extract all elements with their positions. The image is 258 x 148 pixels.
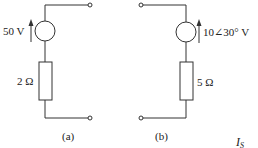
circuit-diagram: 50 V 2 Ω (a) 10∠30° V 5 Ω (b) IS [0, 0, 258, 148]
circuit-a-voltage-source-icon [35, 21, 55, 41]
circuit-a-bottom-terminal-icon [88, 116, 92, 120]
circuit-b-source-arrow-icon [197, 19, 202, 26]
circuit-a [29, 3, 93, 120]
circuit-b-top-terminal-icon [139, 3, 143, 7]
circuit-b-top-wire [142, 5, 186, 22]
circuit-b-resistor-label: 5 Ω [197, 76, 213, 88]
current-source-label: IS [235, 135, 244, 148]
circuit-b-bottom-terminal-icon [139, 116, 143, 120]
current-label-subscript: S [240, 141, 244, 148]
circuit-b-voltage-source-icon [176, 22, 196, 42]
circuit-b [139, 3, 202, 120]
circuit-a-resistor-label: 2 Ω [17, 75, 33, 87]
circuit-a-top-terminal-icon [88, 3, 92, 7]
circuit-b-caption: (b) [155, 130, 168, 143]
circuit-a-caption: (a) [62, 130, 75, 143]
circuit-a-bottom-wire [45, 100, 89, 118]
circuit-a-source-label: 50 V [3, 25, 25, 37]
circuit-a-source-arrow-icon [29, 19, 34, 26]
circuit-b-bottom-wire [142, 100, 186, 118]
circuit-b-source-label: 10∠30° V [203, 26, 249, 38]
circuit-a-resistor-icon [39, 62, 52, 100]
circuit-a-top-wire [45, 5, 89, 21]
circuit-b-resistor-icon [180, 62, 193, 100]
